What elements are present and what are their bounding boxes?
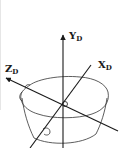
x-axis-line [30,65,91,148]
z-axis-label-subscript: D [12,67,18,76]
x-axis-label: XD [98,60,112,71]
z-axis-label: ZD [5,64,18,75]
left-edge-divider [0,0,1,110]
x-axis-label-main: X [98,59,106,70]
coordinate-frame-diagram: YD XD ZD [0,0,131,148]
x-axis-label-subscript: D [106,63,112,72]
y-axis-label-subscript: D [76,34,82,43]
y-axis-label: YD [69,31,82,42]
bowl-outline [20,76,109,143]
diagram-canvas [0,0,131,148]
